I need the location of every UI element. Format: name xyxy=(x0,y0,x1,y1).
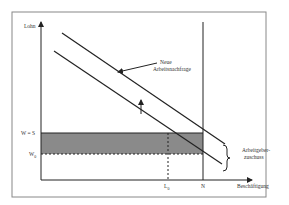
brace-icon xyxy=(223,145,230,171)
y-axis-label: Lohn xyxy=(24,23,36,29)
subsidy-area xyxy=(41,133,203,154)
figure-frame xyxy=(12,12,266,197)
w0-label: W0 xyxy=(29,151,36,159)
label-pointer-arrow-icon xyxy=(118,63,157,72)
l0-label: L0 xyxy=(164,183,169,191)
curve-label-line1: Neue xyxy=(160,59,172,65)
labor-subsidy-diagram: Lohn Beschäftigung Neue Arbeitsnachfrage… xyxy=(0,0,289,205)
x-axis-label: Beschäftigung xyxy=(237,183,269,189)
n-label: N xyxy=(201,183,205,189)
subsidy-label-line1: Arbeitgeber- xyxy=(242,147,270,153)
wage-label: W = S xyxy=(21,130,35,136)
subsidy-label-line2: zuschuss xyxy=(244,154,264,160)
curve-label-line2: Arbeitsnachfrage xyxy=(153,66,191,72)
new-demand-curve xyxy=(62,33,225,144)
